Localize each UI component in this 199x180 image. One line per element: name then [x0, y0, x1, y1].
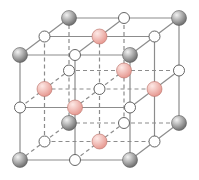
- edge-center-atom: [149, 31, 160, 42]
- edge-center-atom: [39, 31, 50, 42]
- face-center-atom: [92, 29, 107, 44]
- corner-atom: [172, 11, 187, 26]
- corner-atom: [62, 11, 77, 26]
- face-center-atom: [37, 82, 52, 97]
- corner-atom: [62, 116, 77, 131]
- face-center-atom: [68, 100, 83, 115]
- lattice-canvas: [0, 0, 199, 180]
- corner-atom: [13, 153, 28, 168]
- edge-center-atom: [70, 50, 81, 61]
- atoms: [13, 11, 187, 168]
- face-center-atom: [92, 134, 107, 149]
- edge-center-atom: [174, 65, 185, 76]
- corner-atom: [172, 116, 187, 131]
- crystal-lattice-diagram: Rock-salt (NaCl) type cubic crystal latt…: [0, 0, 199, 180]
- edge-center-atom: [149, 136, 160, 147]
- edge-center-atom: [70, 155, 81, 166]
- corner-atom: [123, 48, 138, 63]
- face-center-atom: [147, 82, 162, 97]
- edge-center-atom: [15, 102, 26, 113]
- edge-center-atom: [119, 118, 130, 129]
- edge-center-atom: [64, 65, 75, 76]
- edge-center-atom: [125, 102, 136, 113]
- corner-atom: [123, 153, 138, 168]
- edge-center-atom: [39, 136, 50, 147]
- body-center-atom: [94, 84, 105, 95]
- corner-atom: [13, 48, 28, 63]
- edge-center-atom: [119, 13, 130, 24]
- face-center-atom: [117, 63, 132, 78]
